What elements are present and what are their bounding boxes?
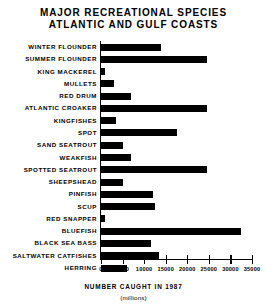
category-label: WEAKFISH — [60, 154, 97, 161]
category-label: SAND SEATROUT — [37, 141, 97, 148]
chart-row: RED SNAPPER — [0, 215, 267, 227]
bar — [101, 215, 105, 222]
chart-row: SCUP — [0, 203, 267, 215]
category-label: WINTER FLOUNDER — [28, 43, 97, 50]
category-label: KING MACKEREL — [38, 68, 97, 75]
chart-row: BLACK SEA BASS — [0, 239, 267, 251]
chart-row: ATLANTIC CROAKER — [0, 104, 267, 116]
chart-row: MULLETS — [0, 80, 267, 92]
bar — [101, 166, 207, 173]
bar-chart-figure: MAJOR RECREATIONAL SPECIES ATLANTIC AND … — [0, 0, 267, 308]
x-axis-tick-label: 5000 — [116, 266, 129, 272]
category-label: BLACK SEA BASS — [35, 239, 97, 246]
chart-row: SAND SEATROUT — [0, 141, 267, 153]
bar — [101, 105, 207, 112]
chart-row: PINFISH — [0, 190, 267, 202]
bar — [101, 191, 153, 198]
chart-row: WINTER FLOUNDER — [0, 43, 267, 55]
chart-row: SPOTTED SEATROUT — [0, 166, 267, 178]
chart-row: SALTWATER CATFISHES — [0, 252, 267, 264]
category-label: SPOTTED SEATROUT — [24, 166, 97, 173]
category-label: PINFISH — [69, 190, 97, 197]
x-axis-tick-label: 15000 — [157, 266, 174, 272]
category-label: RED SNAPPER — [46, 215, 97, 222]
category-label: SUMMER FLOUNDER — [25, 55, 97, 62]
x-axis-tick-label: 25000 — [201, 266, 218, 272]
category-label: BLUEFISH — [62, 227, 97, 234]
x-axis-tick — [166, 255, 167, 264]
bar — [101, 129, 177, 136]
x-axis-label: NUMBER CAUGHT IN 1987 — [0, 283, 267, 290]
bar — [101, 93, 131, 100]
category-label: KINGFISHES — [54, 117, 97, 124]
bar — [101, 44, 161, 51]
chart-row: SHEEPSHEAD — [0, 178, 267, 190]
x-axis-tick — [101, 255, 102, 264]
chart-row: SPOT — [0, 129, 267, 141]
bar — [101, 228, 241, 235]
x-axis-tick — [209, 255, 210, 264]
bar — [101, 154, 131, 161]
category-label: SCUP — [78, 203, 97, 210]
bar — [101, 80, 114, 87]
chart-row: BLUEFISH — [0, 227, 267, 239]
plot-area: WINTER FLOUNDERSUMMER FLOUNDERKING MACKE… — [0, 0, 267, 308]
bar — [101, 56, 207, 63]
chart-row: SUMMER FLOUNDER — [0, 55, 267, 67]
category-label: RED DRUM — [59, 92, 97, 99]
chart-row: RED DRUM — [0, 92, 267, 104]
category-label: SPOT — [78, 129, 97, 136]
category-label: ATLANTIC CROAKER — [25, 104, 97, 111]
x-axis-tick-label: 30000 — [222, 266, 239, 272]
x-axis-tick — [187, 255, 188, 264]
chart-row: KINGFISHES — [0, 117, 267, 129]
category-label: HERRING — [65, 264, 97, 271]
x-axis-tick-label: 10000 — [136, 266, 153, 272]
category-label: SHEEPSHEAD — [49, 178, 97, 185]
x-axis-tick-label: 35000 — [244, 266, 261, 272]
bar — [101, 179, 123, 186]
bar — [101, 203, 155, 210]
bar — [101, 117, 116, 124]
x-axis-tick-label: 20000 — [179, 266, 196, 272]
bar — [101, 142, 123, 149]
x-axis-tick — [252, 255, 253, 264]
x-axis-tick-label: 0 — [99, 266, 102, 272]
bar — [101, 240, 151, 247]
bar — [101, 68, 105, 75]
category-label: MULLETS — [64, 80, 97, 87]
x-axis-units-label: (millions) — [0, 294, 267, 301]
category-label: SALTWATER CATFISHES — [13, 252, 97, 259]
x-axis-tick — [144, 255, 145, 264]
chart-row: WEAKFISH — [0, 154, 267, 166]
chart-row: KING MACKEREL — [0, 68, 267, 80]
x-axis-tick — [123, 255, 124, 264]
bar — [101, 252, 159, 259]
x-axis-tick — [230, 255, 231, 264]
